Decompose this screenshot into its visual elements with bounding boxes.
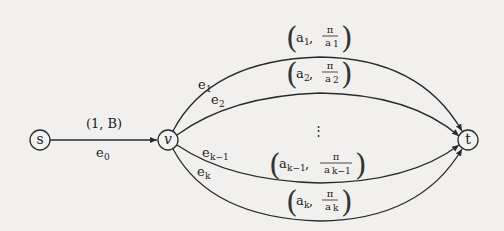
edge-ek-name-label: e k bbox=[197, 164, 211, 181]
svg-text:): ) bbox=[341, 184, 353, 219]
svg-text:,: , bbox=[309, 30, 313, 45]
svg-text:π: π bbox=[327, 24, 334, 35]
svg-text:a: a bbox=[279, 156, 287, 171]
svg-text:a: a bbox=[325, 37, 331, 48]
svg-text:π: π bbox=[333, 151, 340, 162]
edge-e2-weight-label: ( a 2 , π a 2 ) bbox=[286, 56, 353, 91]
svg-text:a: a bbox=[325, 73, 331, 84]
svg-text:e: e bbox=[198, 77, 206, 92]
svg-text:a: a bbox=[324, 164, 330, 175]
svg-text:k−1: k−1 bbox=[332, 166, 351, 176]
svg-text:v: v bbox=[164, 131, 172, 147]
svg-text:): ) bbox=[341, 56, 353, 91]
flow-network-diagram: s v t (1, B) e 0 e 1 e 2 e k−1 e k ( a 1… bbox=[0, 0, 504, 231]
svg-text:a: a bbox=[296, 193, 304, 208]
svg-text:2: 2 bbox=[219, 99, 225, 109]
svg-text:e: e bbox=[96, 145, 104, 160]
svg-text:2: 2 bbox=[333, 75, 339, 85]
edge-ek-1-weight-label: ( a k−1 , π a k−1 ) bbox=[269, 147, 367, 182]
node-t: t bbox=[458, 130, 478, 150]
svg-text:k−1: k−1 bbox=[287, 163, 306, 173]
svg-text:k: k bbox=[333, 203, 339, 213]
svg-text:π: π bbox=[327, 188, 334, 199]
svg-text:a: a bbox=[296, 66, 304, 81]
edge-e0-name-label: e 0 bbox=[96, 145, 110, 162]
svg-text:a: a bbox=[325, 201, 331, 212]
svg-text:e: e bbox=[197, 164, 205, 179]
svg-text:,: , bbox=[309, 193, 313, 208]
edge-e1-name-label: e 1 bbox=[198, 77, 212, 94]
svg-text:t: t bbox=[465, 131, 471, 147]
edge-ek-weight-label: ( a k , π a k ) bbox=[286, 184, 353, 219]
edge-e0-weight-label: (1, B) bbox=[86, 116, 122, 131]
svg-text:,: , bbox=[305, 156, 309, 171]
svg-text:e: e bbox=[202, 145, 210, 160]
edge-e2-name-label: e 2 bbox=[211, 92, 225, 109]
svg-text:k: k bbox=[205, 171, 211, 181]
node-s: s bbox=[30, 130, 50, 150]
svg-text:k−1: k−1 bbox=[210, 152, 229, 162]
svg-text:): ) bbox=[355, 147, 367, 182]
svg-text:a: a bbox=[296, 30, 304, 45]
svg-text:): ) bbox=[341, 20, 353, 55]
edge-ek-1-name-label: e k−1 bbox=[202, 145, 229, 162]
svg-text:s: s bbox=[36, 131, 43, 147]
edge-ek-1 bbox=[177, 145, 459, 183]
svg-text:π: π bbox=[327, 60, 334, 71]
svg-text:e: e bbox=[211, 92, 219, 107]
svg-text:0: 0 bbox=[104, 152, 110, 162]
svg-text:1: 1 bbox=[333, 39, 339, 49]
svg-text:,: , bbox=[309, 66, 313, 81]
edge-e1-weight-label: ( a 1 , π a 1 ) bbox=[286, 20, 353, 55]
node-v: v bbox=[158, 130, 178, 150]
ellipsis: ⋮ bbox=[312, 123, 325, 138]
